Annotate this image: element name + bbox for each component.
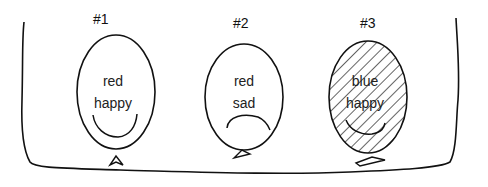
- balloon-2-mood: sad: [214, 95, 274, 111]
- balloon-3-number: #3: [360, 15, 376, 31]
- balloon-2-color: red: [214, 73, 274, 89]
- balloon-1-smile: [93, 114, 137, 137]
- balloon-1-color: red: [83, 73, 143, 89]
- balloon-1-number: #1: [93, 11, 109, 27]
- balloon-3-mood: happy: [335, 95, 395, 111]
- balloon-2-knot: [234, 150, 250, 158]
- balloon-1-knot: [110, 156, 123, 165]
- balloon-diagram: #1 #2 #3 red happy red sad blue happy: [0, 0, 488, 187]
- balloon-3-knot: [356, 157, 385, 166]
- balloon-2-number: #2: [233, 15, 249, 31]
- balloon-1-body: [77, 35, 155, 149]
- balloon-3-color: blue: [335, 73, 395, 89]
- balloon-2-frown: [227, 115, 270, 130]
- balloon-1-mood: happy: [83, 95, 143, 111]
